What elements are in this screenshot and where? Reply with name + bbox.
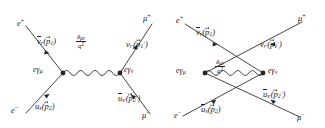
momentum-vector-p2: p — [44, 101, 48, 111]
momentum-vector-p1: p — [46, 36, 50, 46]
label-muon-spinor: us′(p2′) — [118, 93, 140, 104]
label-antimuon-spinor: vr′(p1′) — [260, 39, 282, 50]
label-electron-spinor: us(p2) — [35, 101, 55, 111]
feynman-diagram-figure: e+ vr(p1) δμν q2 eγμ eγν us(p2) e− — [0, 0, 325, 128]
photon-propagator-wave — [205, 71, 263, 76]
label-vertex-right: eγν — [124, 66, 133, 75]
label-positron-spinor: vr(p1) — [37, 36, 56, 46]
label-photon-propagator: δμν q2 — [215, 59, 225, 76]
arrowhead-positron — [44, 50, 49, 55]
overline-u: u — [263, 90, 267, 99]
momentum-vector-p2-prime: p — [274, 89, 278, 99]
leg-line-positron — [26, 26, 63, 73]
label-photon-propagator: δμν q2 — [76, 34, 86, 51]
label-vertex-left: eγμ — [176, 67, 186, 76]
overline-u: u — [118, 94, 122, 103]
vertex-dot-right — [261, 71, 266, 76]
vertex-dot-left — [203, 71, 208, 76]
diagram-crossed: e+ vr(p1) μ+ vr′(p1′) eγμ δμν q2 eγν — [163, 0, 325, 128]
label-electron-spinor: us(p2) — [201, 104, 221, 114]
label-electron-particle: e− — [174, 110, 181, 119]
label-vertex-left: eγμ — [33, 66, 43, 75]
label-antimuon-spinor: vr′(p1′) — [126, 39, 148, 50]
vertex-dot-right — [118, 71, 123, 76]
overline-u: u — [201, 105, 205, 114]
momentum-vector-p1-prime: p — [136, 39, 140, 49]
label-vertex-right: eγν — [268, 67, 277, 76]
label-positron-particle: e+ — [176, 15, 183, 24]
overline-v: v — [196, 28, 200, 37]
photon-propagator-wave — [63, 70, 120, 75]
momentum-vector-p1-prime: p — [270, 39, 274, 49]
label-muon-particle: μ− — [142, 110, 150, 119]
arrowhead-electron — [44, 94, 50, 99]
label-positron-spinor: vr(p1) — [196, 27, 215, 37]
vertex-dot-left — [61, 71, 66, 76]
momentum-vector-p1: p — [205, 27, 209, 37]
label-antimuon-particle: μ+ — [143, 13, 151, 22]
label-muon-spinor: us′(p2′) — [263, 89, 285, 100]
overline-v: v — [37, 37, 41, 46]
propagator-fraction: δμν q2 — [215, 59, 225, 76]
diagram-s-channel-lines — [0, 0, 163, 128]
diagram-s-channel: e+ vr(p1) δμν q2 eγμ eγν us(p2) e− — [0, 0, 163, 128]
momentum-vector-p2: p — [210, 104, 214, 114]
label-antimuon-particle: μ+ — [298, 13, 306, 22]
momentum-vector-p2-prime: p — [129, 93, 133, 103]
propagator-fraction: δμν q2 — [76, 34, 86, 51]
label-positron-particle: e+ — [17, 18, 24, 27]
label-electron-particle: e− — [11, 105, 18, 114]
label-muon-particle: μ− — [297, 112, 305, 121]
